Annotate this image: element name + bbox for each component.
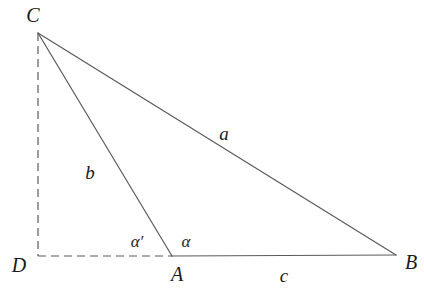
segment-side-c [172,255,396,256]
vertex-label-d: D [12,255,26,275]
vertex-label-b: B [405,252,417,272]
angle-label-alpha: α [182,233,191,250]
geometry-diagram: C D A B a b c α′ α [0,0,424,298]
vertex-label-c: C [26,5,39,25]
side-label-c: c [280,266,288,285]
vertex-label-a: A [171,264,183,284]
side-label-a: a [219,124,229,143]
segment-side-b [38,33,172,256]
side-label-b: b [85,163,95,182]
angle-label-alpha-prime: α′ [131,233,144,250]
geometry-canvas [0,0,424,298]
segment-side-a [38,33,396,255]
